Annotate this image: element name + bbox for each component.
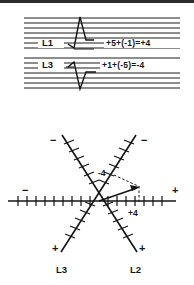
positive-four-annotation: +4 <box>128 208 138 218</box>
staff-2-line-label: L3 <box>42 59 53 70</box>
diagonal-l3-lower-sign: + <box>52 242 58 254</box>
star-diagram: − − + + − + -4 +4 L3 L2 <box>8 134 178 275</box>
diagonal-line-l2-stroke <box>62 135 137 252</box>
result-vector-arrow <box>99 185 140 201</box>
diagonal-line-l3-stroke <box>61 135 136 252</box>
staff-2-equation: +1+(-5)=-4 <box>102 60 144 70</box>
diagonal-l3-upper-sign: − <box>141 134 147 146</box>
figure-page: L1 +5+(-1)=+4 L3 +1+(-5)=-4 <box>0 0 194 285</box>
horizontal-axis-right-sign: + <box>172 184 178 196</box>
figure-canvas: L1 +5+(-1)=+4 L3 +1+(-5)=-4 <box>0 0 194 285</box>
horizontal-axis-left-sign: − <box>22 184 28 196</box>
staff-1-line-label: L1 <box>42 37 54 48</box>
staff-1-equation: +5+(-1)=+4 <box>106 38 151 48</box>
staff-2-waveform <box>66 62 96 89</box>
negative-four-annotation: -4 <box>98 168 106 178</box>
star-label-l3: L3 <box>56 264 67 275</box>
star-label-l2: L2 <box>130 264 141 275</box>
diagonal-l2-upper-sign: − <box>50 134 56 146</box>
diagonal-l2-lower-sign: + <box>139 242 145 254</box>
staff-section-1: L1 +5+(-1)=+4 <box>24 17 180 49</box>
staff-section-2: L3 +1+(-5)=-4 <box>24 58 180 89</box>
